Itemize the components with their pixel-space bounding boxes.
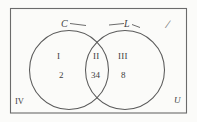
set-l-label: L [124, 19, 130, 29]
set-c-label: C [61, 19, 68, 29]
set-l-leader-line [109, 24, 124, 26]
universal-set-label: U [174, 96, 181, 105]
region-iv-roman: IV [15, 97, 24, 106]
region-ii-roman: II [93, 52, 99, 61]
region-i-roman: I [57, 52, 60, 61]
set-l-leader-tail [132, 25, 140, 28]
set-c-leader-line [70, 24, 86, 26]
region-iii-count: 8 [121, 71, 126, 80]
venn-diagram-figure: C L / I 2 II 34 III 8 IV U [0, 0, 197, 122]
region-iii-roman: III [118, 52, 128, 61]
region-i-count: 2 [59, 71, 64, 80]
region-ii-count: 34 [91, 71, 100, 80]
